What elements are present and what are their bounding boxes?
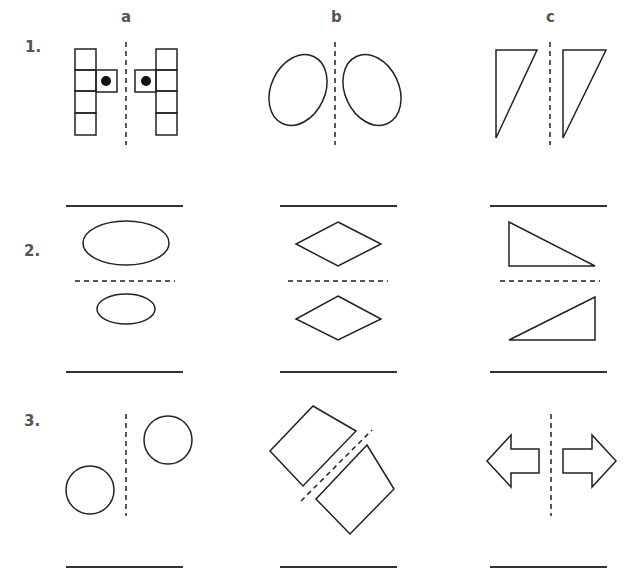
answer-line-3a[interactable] xyxy=(66,566,183,568)
arrow-right-icon xyxy=(563,435,616,487)
answer-line-1c[interactable] xyxy=(490,205,607,207)
dot-right xyxy=(141,76,151,86)
figure-3c xyxy=(487,414,616,516)
figure-2a xyxy=(75,221,175,324)
figure-1a xyxy=(75,42,177,145)
answer-line-2a[interactable] xyxy=(66,371,183,373)
answer-line-1a[interactable] xyxy=(66,205,183,207)
figure-1b xyxy=(258,42,412,145)
worksheet-figures xyxy=(0,0,642,581)
figure-2b xyxy=(288,222,388,340)
figure-3a xyxy=(66,414,192,516)
dot-left xyxy=(101,76,111,86)
answer-line-2c[interactable] xyxy=(490,371,607,373)
figure-1c xyxy=(496,42,606,145)
answer-line-3b[interactable] xyxy=(280,566,397,568)
answer-line-1b[interactable] xyxy=(280,205,397,207)
answer-line-3c[interactable] xyxy=(490,566,607,568)
figure-2c xyxy=(500,222,600,340)
arrow-left-icon xyxy=(487,435,539,487)
answer-line-2b[interactable] xyxy=(280,371,397,373)
figure-3b xyxy=(270,406,394,534)
mirror-line-3b xyxy=(301,430,372,501)
